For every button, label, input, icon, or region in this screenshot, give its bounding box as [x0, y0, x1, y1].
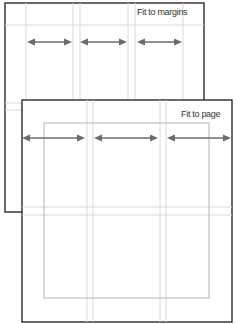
page-frame — [22, 100, 232, 322]
page-scaling-diagram: Fit to margins Fit to page — [0, 0, 236, 324]
fit-to-page-label: Fit to page — [181, 109, 221, 119]
panel-fit-to-page: Fit to page — [22, 100, 232, 322]
fit-to-margins-label: Fit to margins — [137, 7, 188, 17]
